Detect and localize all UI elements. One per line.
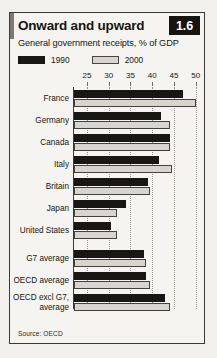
bar-1990 (74, 250, 144, 258)
bar-1990 (74, 222, 111, 230)
category-label: Germany (35, 116, 69, 126)
chart-bar-row: G7 average (10, 250, 206, 268)
chart-bar-rows: FranceGermanyCanadaItalyBritainJapanUnit… (10, 87, 206, 309)
chart-bar-row: Canada (10, 134, 206, 152)
legend-label-2000: 2000 (125, 55, 144, 65)
x-axis-tick-mark (152, 82, 153, 86)
figure-frame: Onward and upward 1.6 General government… (9, 12, 205, 344)
x-axis-tick-label: 50 (191, 71, 200, 80)
bar-2000 (74, 187, 150, 195)
page-title: Onward and upward (18, 18, 144, 33)
x-axis-tick-labels: 253035404550 (10, 71, 206, 83)
bar-1990 (74, 90, 183, 98)
chart-bar-row: United States (10, 222, 206, 240)
header-accent-bar (10, 13, 14, 39)
bar-1990 (74, 294, 165, 302)
x-axis-tick-mark (87, 82, 88, 86)
legend-swatch-1990-icon (18, 56, 45, 64)
x-axis-tick-mark (174, 82, 175, 86)
bar-1990 (74, 200, 126, 208)
chart-subtitle: General government receipts, % of GDP (18, 38, 179, 48)
x-axis-tick-mark (109, 82, 110, 86)
x-axis-tick-label: 30 (104, 71, 113, 80)
bar-2000 (74, 209, 117, 217)
category-label: G7 average (26, 254, 69, 264)
chart-bar-row: Japan (10, 200, 206, 218)
bar-2000 (74, 99, 196, 107)
category-label: Japan (47, 204, 69, 214)
category-label: Canada (40, 138, 69, 148)
chart-bar-row: Britain (10, 178, 206, 196)
bar-1990 (74, 156, 159, 164)
category-label: Italy (54, 160, 69, 170)
chart-bar-row: Germany (10, 112, 206, 130)
category-label: OECD excl G7, average (13, 293, 69, 312)
category-label: France (44, 94, 69, 104)
legend-item-1990: 1990 (18, 55, 70, 65)
bar-2000 (74, 121, 170, 129)
figure-page: Onward and upward 1.6 General government… (0, 0, 217, 358)
bar-1990 (74, 178, 148, 186)
x-axis-tick-mark (196, 82, 197, 86)
chart-plot-area: 253035404550 FranceGermanyCanadaItalyBri… (10, 71, 206, 321)
figure-number-badge: 1.6 (169, 16, 200, 35)
x-axis-tick-label: 35 (126, 71, 135, 80)
bar-2000 (74, 303, 170, 311)
category-label: Britain (46, 182, 69, 192)
chart-bar-row: OECD excl G7, average (10, 294, 206, 312)
bar-1990 (74, 112, 161, 120)
x-axis-tick-label: 40 (148, 71, 157, 80)
category-label: OECD average (13, 276, 69, 286)
legend-swatch-2000-icon (92, 56, 119, 64)
legend-item-2000: 2000 (92, 55, 144, 65)
bar-1990 (74, 272, 146, 280)
chart-bar-row: France (10, 90, 206, 108)
chart-bar-row: Italy (10, 156, 206, 174)
bar-2000 (74, 231, 117, 239)
x-axis-tick-mark (130, 82, 131, 86)
legend-label-1990: 1990 (51, 55, 70, 65)
source-note: Source: OECD (18, 330, 63, 337)
bar-2000 (74, 259, 146, 267)
bar-2000 (74, 165, 172, 173)
category-label: United States (20, 226, 69, 236)
bar-1990 (74, 134, 170, 142)
bar-2000 (74, 281, 150, 289)
chart-legend: 1990 2000 (18, 55, 165, 65)
chart-bar-row: OECD average (10, 272, 206, 290)
bar-2000 (74, 143, 170, 151)
x-axis-tick-label: 45 (169, 71, 178, 80)
x-axis-tick-label: 25 (83, 71, 92, 80)
